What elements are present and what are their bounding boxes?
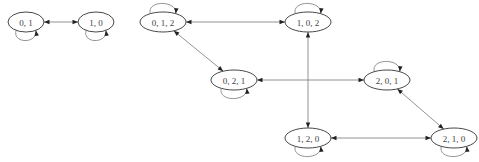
edge-0-1-to-1-0 [44, 20, 78, 24]
edge-0-1-2-to-1-0-2 [186, 20, 285, 24]
arrowhead-icon [245, 88, 249, 94]
arrowhead-icon [44, 20, 50, 24]
node-label: 0, 2, 1 [223, 76, 246, 86]
node-0-1-2: 0, 1, 2 [140, 12, 186, 32]
arrowhead-icon [331, 136, 337, 140]
edge-line [174, 31, 223, 71]
node-2-1-0: 2, 1, 0 [431, 128, 477, 148]
edge-1-2-0-to-2-1-0 [331, 136, 431, 140]
node-1-2-0: 1, 2, 0 [285, 128, 331, 148]
arrowhead-icon [174, 8, 178, 14]
arrowhead-icon [73, 20, 79, 24]
state-graph: 0, 1 1, 0 0, 1, 2 1, 0, 2 0, 2, 1 2, 0, … [0, 0, 479, 162]
arrowhead-icon [319, 8, 323, 14]
node-1-0: 1, 0 [78, 12, 114, 32]
edge-0-2-1-to-2-0-1 [257, 78, 364, 82]
node-label: 0, 1, 2 [152, 18, 175, 28]
node-label: 0, 1 [19, 18, 33, 28]
arrowhead-icon [306, 32, 310, 38]
node-label: 1, 0 [89, 18, 103, 28]
arrowhead-icon [280, 20, 286, 24]
arrowhead-icon [105, 30, 109, 36]
nodes-layer: 0, 1 1, 0 0, 1, 2 1, 0, 2 0, 2, 1 2, 0, … [8, 12, 477, 148]
arrowhead-icon [465, 146, 469, 152]
node-label: 2, 1, 0 [443, 134, 466, 144]
arrowhead-icon [257, 78, 263, 82]
arrowhead-icon [319, 146, 323, 152]
arrowhead-icon [306, 123, 310, 129]
node-1-0-2: 1, 0, 2 [285, 12, 331, 32]
edge-line [397, 89, 443, 129]
node-0-1: 0, 1 [8, 12, 44, 32]
node-label: 1, 2, 0 [297, 134, 320, 144]
node-label: 1, 0, 2 [297, 18, 320, 28]
edge-0-1-2-to-0-2-1 [174, 31, 223, 71]
arrowhead-icon [35, 30, 39, 36]
node-0-2-1: 0, 2, 1 [211, 70, 257, 90]
arrowhead-icon [359, 78, 365, 82]
arrowhead-icon [426, 136, 432, 140]
node-2-0-1: 2, 0, 1 [364, 70, 410, 90]
arrowhead-icon [398, 66, 402, 72]
node-label: 2, 0, 1 [376, 76, 399, 86]
edge-2-0-1-to-2-1-0 [397, 89, 443, 129]
arrowhead-icon [186, 20, 192, 24]
